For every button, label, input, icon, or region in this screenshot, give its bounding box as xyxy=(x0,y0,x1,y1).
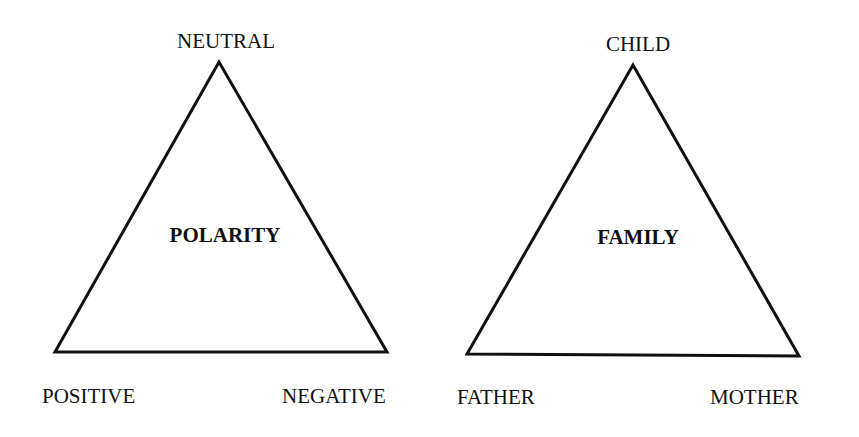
polarity-top-label: NEUTRAL xyxy=(177,31,275,52)
family-bottom-left-label: FATHER xyxy=(457,387,535,408)
triangle-diagrams: NEUTRAL POSITIVE NEGATIVE POLARITY CHILD… xyxy=(0,0,859,437)
triangle-lines xyxy=(0,0,859,437)
polarity-bottom-left-label: POSITIVE xyxy=(42,386,135,407)
polarity-bottom-right-label: NEGATIVE xyxy=(282,386,386,407)
family-bottom-right-label: MOTHER xyxy=(710,387,799,408)
polarity-triangle xyxy=(55,62,387,352)
family-top-label: CHILD xyxy=(606,34,670,55)
family-center-label: FAMILY xyxy=(597,227,679,248)
family-triangle xyxy=(467,65,799,356)
polarity-center-label: POLARITY xyxy=(170,225,281,246)
